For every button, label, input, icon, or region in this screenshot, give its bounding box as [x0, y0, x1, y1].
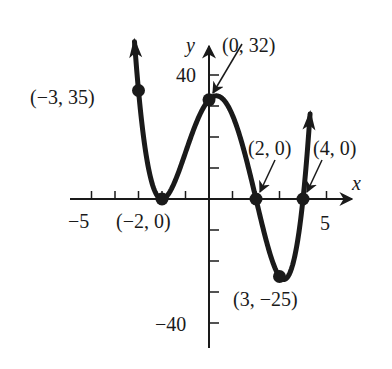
key-points	[132, 84, 310, 283]
key-point-dot	[297, 193, 310, 206]
tick-label-40: 40	[176, 64, 196, 86]
key-point-dot	[250, 193, 263, 206]
tick-label-neg40: −40	[155, 313, 186, 335]
x-axis-label: x	[351, 172, 361, 194]
y-axis-label: y	[184, 34, 195, 57]
point-label-m2-0: (−2, 0)	[116, 210, 171, 233]
tick-label-neg5: −5	[68, 210, 89, 232]
tick-label-5: 5	[320, 212, 330, 234]
polynomial-graph: x y −5 5 40 −40 (−3, 35) (−2, 0) (0, 32)…	[0, 0, 392, 369]
key-point-dot	[203, 93, 216, 106]
key-point-dot	[156, 193, 169, 206]
key-point-dot	[273, 270, 286, 283]
point-label-2-0: (2, 0)	[248, 137, 291, 160]
point-label-4-0: (4, 0)	[313, 137, 356, 160]
pointer-arrow-2-0	[260, 160, 275, 192]
axes	[70, 46, 352, 348]
point-label-m3-35: (−3, 35)	[30, 86, 95, 109]
point-label-0-32: (0, 32)	[222, 34, 275, 57]
point-label-3-m25: (3, −25)	[233, 288, 298, 311]
key-point-dot	[132, 84, 145, 97]
pointer-arrow-4-0	[307, 160, 322, 192]
